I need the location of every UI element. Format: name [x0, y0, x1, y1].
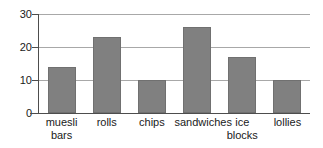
bar-chart: 30 20 10 0 mueslibars rolls chips sandwi… — [0, 0, 323, 148]
y-tick-group-10: 10 — [10, 75, 32, 86]
plot-area — [39, 14, 310, 113]
bar-sandwiches — [183, 27, 211, 113]
y-tick-label-0: 0 — [10, 108, 32, 119]
bar-muesli-bars — [48, 67, 76, 113]
x-label-chips: chips — [129, 116, 174, 129]
y-tick-label-30: 30 — [10, 9, 32, 20]
y-tick-label-10: 10 — [10, 75, 32, 86]
x-label-ice-blocks: iceblocks — [220, 116, 265, 142]
bar-lollies — [273, 80, 301, 113]
bar-rolls — [93, 37, 121, 113]
bar-chips — [138, 80, 166, 113]
x-label-rolls: rolls — [84, 116, 129, 129]
x-label-lollies: lollies — [265, 116, 310, 129]
x-axis-labels: mueslibars rolls chips sandwiches iceblo… — [39, 116, 310, 146]
y-tick-group-20: 20 — [10, 42, 32, 53]
x-label-muesli-bars: mueslibars — [39, 116, 84, 142]
axis-baseline — [30, 113, 310, 114]
y-tick-label-20: 20 — [10, 42, 32, 53]
x-label-sandwiches: sandwiches — [175, 116, 220, 129]
y-tick-group-0: 0 — [10, 108, 32, 119]
y-tick-group-30: 30 — [10, 9, 32, 20]
bar-ice-blocks — [228, 57, 256, 113]
